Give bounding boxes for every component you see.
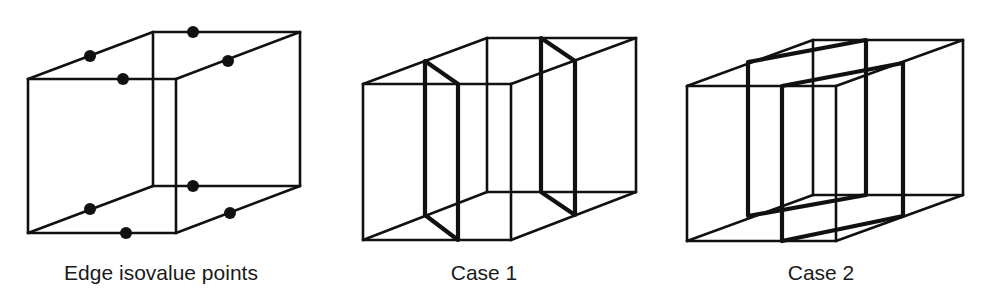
isovalue-point	[224, 207, 236, 219]
panel-case-1: Case 1	[363, 38, 636, 284]
isosurface-plane	[782, 63, 903, 241]
isovalue-points	[84, 26, 236, 239]
panel-label: Case 1	[451, 261, 518, 284]
cube-edge	[176, 186, 300, 233]
isovalue-point	[84, 203, 96, 215]
panel-label: Edge isovalue points	[64, 261, 258, 284]
cube-wireframe	[363, 38, 636, 240]
isovalue-point	[187, 180, 199, 192]
cube-wireframe	[687, 40, 963, 241]
panel-case-2: Case 2	[687, 40, 963, 284]
isovalue-point	[187, 26, 199, 38]
cube-wireframe	[28, 32, 300, 233]
isosurface-plane	[541, 38, 575, 215]
isosurface-plane	[748, 40, 866, 216]
marching-cubes-ambiguity-diagram: Edge isovalue points Case 1 Case 2	[0, 0, 991, 307]
cube-edge	[176, 32, 300, 79]
isovalue-point	[117, 73, 129, 85]
isovalue-point	[222, 55, 234, 67]
isovalue-point	[84, 50, 96, 62]
panel-edge-isovalue-points: Edge isovalue points	[28, 26, 300, 284]
panel-label: Case 2	[788, 261, 855, 284]
isovalue-point	[120, 227, 132, 239]
